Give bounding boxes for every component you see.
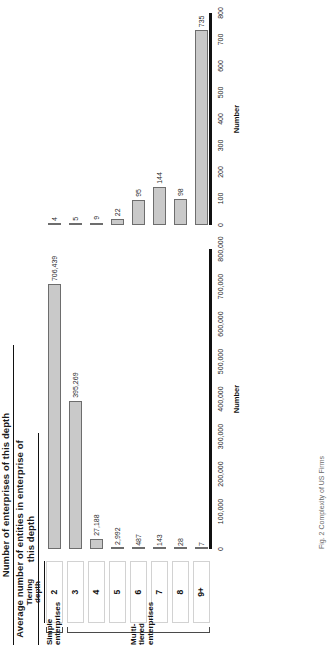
axis-tick-label: 200 <box>217 166 224 178</box>
bar <box>153 547 166 549</box>
figure-caption: Fig. 2 Complexity of US Firms <box>318 456 325 549</box>
panel-title-enterprises: Number of enterprises of this depth <box>0 345 14 645</box>
tier-depth-cell: 5 <box>109 561 126 623</box>
axis-tick-label: 200,000 <box>217 461 224 486</box>
axis-label-number-left: Number <box>232 385 241 413</box>
tier-depth-cell: 3 <box>67 561 84 623</box>
group-label-line2: enterprises <box>53 602 62 645</box>
bar <box>111 547 124 549</box>
bar-value-label: 143 <box>156 534 163 546</box>
bar <box>153 187 166 225</box>
axis-baseline <box>209 249 212 549</box>
axis-tick-label: 600 <box>217 60 224 72</box>
bar-value-label: 5 <box>72 217 79 221</box>
axis-tick-label: 500 <box>217 87 224 99</box>
bar <box>132 200 145 225</box>
tier-table-header: Tiering depth <box>26 561 45 623</box>
axis-tick-label: 700,000 <box>217 274 224 299</box>
tier-depth-cell: 8 <box>172 561 189 623</box>
axis-tick-label: 0 <box>217 223 224 227</box>
bar-value-label: 7 <box>198 542 205 546</box>
bar-value-label: 27,188 <box>93 514 100 535</box>
tier-depth-cell: 6 <box>130 561 147 623</box>
bar-value-label: 9 <box>93 216 100 220</box>
bar <box>48 223 61 225</box>
axis-tick-label: 100,000 <box>217 499 224 524</box>
axis-tick-label: 400,000 <box>217 386 224 411</box>
bar <box>48 284 61 549</box>
chart-plot-avg-entities: 4592295144987350100200300400500600700800 <box>44 13 212 225</box>
bar-value-label: 487 <box>135 534 142 546</box>
axis-label-number-right: Number <box>232 105 241 133</box>
bar-value-label: 28 <box>177 538 184 546</box>
bar <box>90 539 103 549</box>
bar-value-label: 98 <box>177 188 184 196</box>
tier-header-line2: depth <box>33 581 42 603</box>
bar <box>195 30 208 225</box>
bar-value-label: 706,439 <box>51 256 58 281</box>
bar <box>174 547 187 549</box>
bar <box>69 401 82 549</box>
axis-tick-label: 500,000 <box>217 349 224 374</box>
axis-tick-label: 600,000 <box>217 311 224 336</box>
axis-tick-label: 100 <box>217 193 224 205</box>
bar <box>195 547 208 549</box>
axis-baseline <box>209 13 212 225</box>
axis-tick-label: 700 <box>217 34 224 46</box>
bar-value-label: 22 <box>114 208 121 216</box>
bar <box>111 219 124 225</box>
chart-plot-enterprises: 706,439395,26927,1882,9924871432870100,0… <box>44 249 212 549</box>
bar-value-label: 4 <box>51 217 58 221</box>
figure-rotated-canvas: Number of enterprises of this depth 706,… <box>0 0 334 645</box>
group-label-line1: Multi-tiered <box>129 623 147 645</box>
tier-depth-cell: 4 <box>88 561 105 623</box>
bar <box>69 223 82 225</box>
axis-tick-label: 800 <box>217 7 224 19</box>
bar <box>174 199 187 225</box>
group-label-line2: enterprises <box>146 602 155 645</box>
bar <box>90 223 103 225</box>
axis-tick-label: 300 <box>217 140 224 152</box>
axis-tick-label: 300,000 <box>217 424 224 449</box>
bar-value-label: 2,992 <box>114 527 121 545</box>
bar <box>132 547 145 549</box>
axis-tick-label: 400 <box>217 113 224 125</box>
figure-root: Number of enterprises of this depth 706,… <box>0 0 334 645</box>
axis-tick-label: 800,000 <box>217 236 224 261</box>
bar-value-label: 735 <box>198 16 205 28</box>
tier-depth-cell: 9+ <box>193 561 210 623</box>
bar-value-label: 144 <box>156 172 163 184</box>
bar-value-label: 95 <box>135 189 142 197</box>
axis-tick-label: 0 <box>217 547 224 551</box>
bar-value-label: 395,269 <box>72 372 79 397</box>
